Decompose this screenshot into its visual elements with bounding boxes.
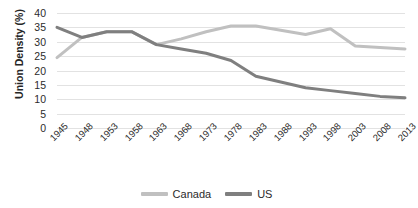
x-axis-tick-labels: 1945194819531958196319681973197819831988… — [0, 128, 413, 180]
legend-label-us: US — [257, 189, 272, 200]
y-tick-label-5: 5 — [2, 108, 46, 119]
plot-area — [57, 13, 405, 128]
chart-legend: CanadaUS — [0, 184, 413, 204]
y-tick-label-20: 20 — [2, 65, 46, 76]
y-tick-label-25: 25 — [2, 51, 46, 62]
y-tick-label-15: 15 — [2, 80, 46, 91]
y-axis-tick-labels: 4035302520151050 — [0, 13, 50, 128]
series-layer — [57, 13, 405, 128]
legend-swatch-us — [225, 192, 252, 196]
legend-swatch-canada — [141, 192, 168, 196]
y-tick-label-10: 10 — [2, 94, 46, 105]
series-line-us — [57, 27, 405, 97]
legend-entry-us[interactable]: US — [225, 189, 272, 200]
legend-label-canada: Canada — [173, 189, 212, 200]
legend-entry-canada[interactable]: Canada — [141, 189, 212, 200]
y-tick-label-30: 30 — [2, 37, 46, 48]
x-tick-label-1945: 1945 — [48, 121, 70, 143]
y-tick-label-40: 40 — [2, 8, 46, 19]
y-tick-label-35: 35 — [2, 22, 46, 33]
